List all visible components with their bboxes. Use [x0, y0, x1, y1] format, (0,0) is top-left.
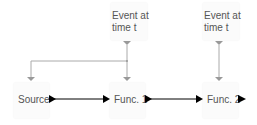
- arrow-head-icon: [196, 95, 203, 103]
- junction-dot: [126, 60, 128, 62]
- arrow-tail-icon: [145, 95, 152, 103]
- triangle-icon: [215, 41, 223, 45]
- arrow-head-icon: [103, 95, 110, 103]
- event1-to-source-line: [31, 61, 127, 77]
- arrow-down-icon: [123, 77, 131, 81]
- arrow-out-icon: [238, 95, 246, 103]
- arrow-down-icon: [215, 77, 223, 81]
- triangle-icon: [123, 41, 131, 45]
- arrow-down-icon: [27, 77, 35, 81]
- arrow-tail-icon: [49, 95, 56, 103]
- connector-layer: [0, 0, 257, 125]
